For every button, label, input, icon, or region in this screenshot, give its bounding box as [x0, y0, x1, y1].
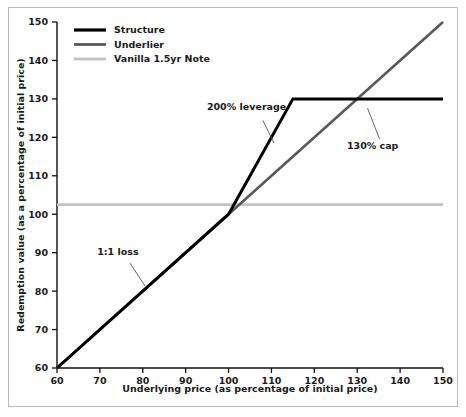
- legend-label: Underlier: [114, 39, 164, 50]
- annotation-label: 1:1 loss: [97, 246, 139, 257]
- chart-figure: 60708090100110120130140150 6070809010011…: [0, 0, 466, 417]
- y-tick-label: 130: [28, 93, 48, 104]
- annotation-label: 200% leverage: [207, 101, 286, 112]
- annotation-label: 130% cap: [347, 140, 399, 151]
- y-tick-label: 70: [35, 324, 49, 335]
- y-axis-tick-labels: 60708090100110120130140150: [28, 16, 48, 373]
- x-tick-label: 150: [433, 375, 453, 386]
- x-axis-ticks: [57, 368, 443, 373]
- x-tick-label: 70: [93, 375, 107, 386]
- y-tick-label: 140: [28, 55, 48, 66]
- y-tick-label: 100: [28, 209, 48, 220]
- x-tick-label: 140: [390, 375, 410, 386]
- y-tick-label: 80: [35, 286, 49, 297]
- y-tick-label: 110: [28, 170, 48, 181]
- x-axis-title: Underlying price (as percentage of initi…: [122, 383, 377, 394]
- line-chart: 60708090100110120130140150 6070809010011…: [0, 0, 466, 417]
- y-tick-label: 150: [28, 16, 48, 27]
- data-series-group: [57, 22, 443, 368]
- legend-label: Vanilla 1.5yr Note: [114, 53, 210, 64]
- annotation-leader-line: [368, 108, 380, 139]
- x-tick-label: 60: [50, 375, 64, 386]
- annotation-leader-line: [130, 263, 145, 286]
- chart-legend: StructureUnderlierVanilla 1.5yr Note: [74, 24, 210, 64]
- y-axis-ticks: [52, 22, 57, 368]
- y-tick-label: 90: [35, 247, 49, 258]
- annotations-group: 200% leverage130% cap1:1 loss: [97, 101, 398, 286]
- legend-label: Structure: [114, 24, 165, 35]
- y-tick-label: 60: [35, 362, 49, 373]
- y-tick-label: 120: [28, 132, 48, 143]
- y-axis-title: Redemption value (as a percentage of ini…: [15, 58, 26, 331]
